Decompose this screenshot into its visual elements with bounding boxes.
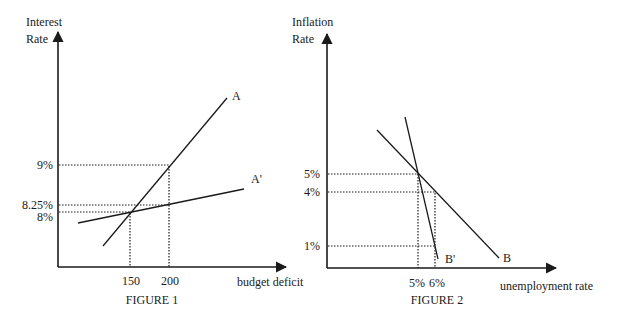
curve-a-label: A	[232, 89, 241, 103]
guide-5pct-5pct	[328, 174, 418, 268]
xtick-5pct: 5%	[409, 276, 425, 290]
figure-1: Interest Rate A A' 9% 8.25% 8% 150 200 b…	[22, 15, 304, 307]
figures-canvas: Interest Rate A A' 9% 8.25% 8% 150 200 b…	[0, 0, 622, 321]
curve-a-prime	[78, 189, 244, 223]
x-axis-label: unemployment rate	[500, 279, 593, 293]
xtick-200: 200	[161, 274, 179, 288]
y-axis-label-line1: Interest	[26, 15, 63, 29]
ytick-1pct: 1%	[304, 239, 320, 253]
curve-b-label: B	[503, 251, 511, 265]
y-axis-label-line2: Rate	[292, 32, 314, 46]
xtick-6pct: 6%	[429, 276, 445, 290]
figure-caption: FIGURE 1	[126, 293, 178, 307]
x-axis-label: budget deficit	[237, 275, 304, 289]
y-axis-label-line2: Rate	[26, 32, 48, 46]
guide-4pct-6pct	[328, 192, 435, 268]
curve-b	[377, 130, 499, 258]
ytick-9pct: 9%	[37, 158, 53, 172]
ytick-4pct: 4%	[304, 185, 320, 199]
curve-a-prime-label: A'	[251, 172, 262, 186]
curve-b-prime-label: B'	[445, 252, 455, 266]
figure-caption: FIGURE 2	[411, 293, 463, 307]
ytick-8pct: 8%	[37, 210, 53, 224]
curve-a	[103, 98, 227, 246]
y-axis-label-line1: Inflation	[292, 15, 333, 29]
xtick-150: 150	[122, 274, 140, 288]
figure-2: Inflation Rate B B' 5% 4% 1% 5% 6% unemp…	[292, 15, 593, 307]
ytick-5pct: 5%	[304, 167, 320, 181]
